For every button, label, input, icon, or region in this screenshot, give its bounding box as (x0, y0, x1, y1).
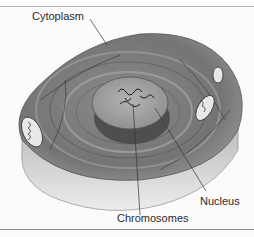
label-nucleus: Nucleus (200, 195, 240, 207)
nucleus-structure (92, 77, 170, 144)
label-cytoplasm: Cytoplasm (32, 10, 84, 22)
cytoplasm-leader (90, 19, 107, 45)
label-chromosomes: Chromosomes (117, 212, 189, 224)
diagram-frame: Cytoplasm Nucleus Chromosomes (0, 0, 254, 237)
bottom-rule (0, 229, 254, 230)
